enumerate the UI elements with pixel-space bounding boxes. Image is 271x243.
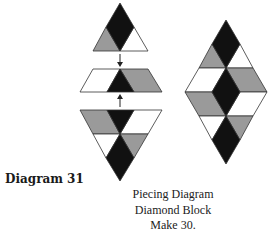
up-arrow-icon [117, 94, 123, 107]
down-arrow-icon [117, 54, 123, 67]
caption: Piecing Diagram Diamond Block Make 30. [118, 187, 228, 234]
finished-diamond-block [185, 20, 267, 164]
caption-line-3: Make 30. [118, 218, 228, 234]
middle-trapezoid-unit [80, 69, 162, 92]
diagram-label: Diagram 31 [5, 172, 84, 186]
caption-line-2: Diamond Block [118, 203, 228, 219]
top-triangle-unit [93, 3, 148, 51]
caption-line-1: Piecing Diagram [118, 187, 228, 203]
bottom-triangle-unit [80, 110, 162, 181]
